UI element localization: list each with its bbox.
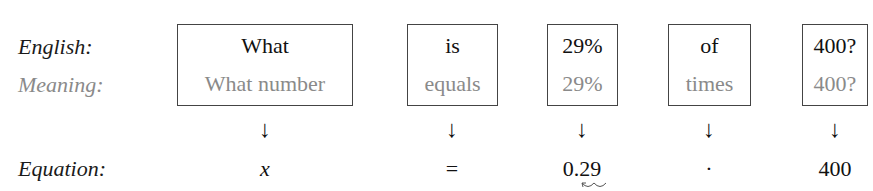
meaning-word: 29% xyxy=(548,71,617,97)
meaning-word: times xyxy=(669,71,750,97)
translation-box-percent: 29% 29% xyxy=(547,24,618,106)
translation-box-what: What What number xyxy=(177,24,353,106)
down-arrow-icon: ↓ xyxy=(245,116,285,143)
down-arrow-icon: ↓ xyxy=(432,116,472,143)
equation-term-x: x xyxy=(225,156,305,182)
meaning-word: 400? xyxy=(803,71,867,97)
equation-term-decimal: 0.29 xyxy=(542,156,622,182)
english-word: 400? xyxy=(803,33,867,59)
row-label-equation: Equation: xyxy=(18,156,106,182)
equation-term-times: · xyxy=(669,156,749,182)
english-word: is xyxy=(408,33,497,59)
translation-box-is: is equals xyxy=(407,24,498,106)
down-arrow-icon: ↓ xyxy=(689,116,729,143)
translation-box-400: 400? 400? xyxy=(802,24,868,106)
meaning-word: What number xyxy=(178,71,352,97)
english-word: What xyxy=(178,33,352,59)
equation-term-400: 400 xyxy=(795,156,873,182)
translation-box-of: of times xyxy=(668,24,751,106)
row-label-english: English: xyxy=(18,34,93,60)
english-word: of xyxy=(669,33,750,59)
meaning-word: equals xyxy=(408,71,497,97)
english-word: 29% xyxy=(548,33,617,59)
row-label-meaning: Meaning: xyxy=(18,72,104,98)
decimal-shift-arrows-icon xyxy=(578,180,618,191)
down-arrow-icon: ↓ xyxy=(562,116,602,143)
equation-term-equals: = xyxy=(412,156,492,182)
down-arrow-icon: ↓ xyxy=(815,116,855,143)
